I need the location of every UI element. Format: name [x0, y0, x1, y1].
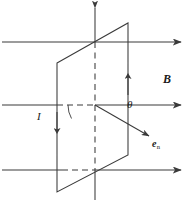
angle-theta-label: θ [127, 99, 132, 110]
normal-vector-group [95, 105, 149, 136]
normal-vector-en [95, 105, 149, 136]
current-label: I [37, 111, 41, 122]
normal-vector-label-base: e [152, 138, 156, 149]
angle-arc [68, 105, 72, 119]
normal-vector-label-subscript: n [157, 143, 160, 150]
normal-vector-label: en [152, 139, 160, 151]
diagram-canvas [0, 0, 186, 208]
field-lines-group [2, 42, 181, 170]
physics-diagram: B θ I en [0, 0, 186, 208]
magnetic-field-label: B [163, 73, 171, 85]
